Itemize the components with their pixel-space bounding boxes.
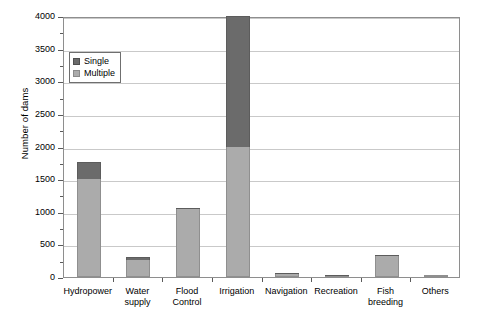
x-axis-tick [262, 278, 263, 282]
x-axis-tick [212, 278, 213, 282]
gridline [64, 116, 459, 117]
gridline [64, 51, 459, 52]
y-axis-tick-label: 2500 [0, 110, 55, 119]
legend-label-single: Single [84, 57, 109, 66]
bar [126, 257, 150, 277]
gridline [64, 214, 459, 215]
bar-segment-multiple [325, 276, 349, 277]
bar [424, 276, 448, 277]
x-axis-tick-label: Recreation [311, 286, 361, 297]
y-axis-tick-label: 500 [0, 240, 55, 249]
x-axis-tick [410, 278, 411, 282]
y-axis-tick-label: 2000 [0, 143, 55, 152]
bar-segment-multiple [226, 147, 250, 278]
bar-segment-multiple [275, 274, 299, 277]
x-axis-tick-label: Irrigation [212, 286, 262, 297]
legend-label-multiple: Multiple [84, 69, 115, 78]
x-axis-tick-label: Flood Control [162, 286, 212, 307]
y-axis-tick-label: 3000 [0, 77, 55, 86]
y-axis-tick [58, 278, 63, 279]
bar [226, 16, 250, 277]
gridline [64, 246, 459, 247]
bar-segment-multiple [375, 256, 399, 277]
bar [325, 275, 349, 277]
x-axis-tick-label: Water supply [113, 286, 163, 307]
legend: Single Multiple [69, 52, 121, 83]
bar-segment-multiple [126, 260, 150, 277]
y-axis-tick-label: 1500 [0, 175, 55, 184]
legend-item-multiple: Multiple [73, 67, 115, 79]
y-axis-tick-label: 3500 [0, 45, 55, 54]
x-axis-tick-label: Hydropower [63, 286, 113, 297]
x-axis-tick [311, 278, 312, 282]
bar-segment-multiple [176, 209, 200, 277]
bar [176, 208, 200, 277]
bar-segment-single [77, 162, 101, 179]
x-axis-tick [162, 278, 163, 282]
x-axis-tick-label: Others [410, 286, 460, 297]
gridline [64, 149, 459, 150]
y-axis-tick-label: 0 [0, 273, 55, 282]
x-axis-tick-label: Fish breeding [361, 286, 411, 307]
bar-segment-multiple [424, 275, 448, 277]
x-axis-tick-label: Navigation [262, 286, 312, 297]
legend-item-single: Single [73, 55, 115, 67]
single-swatch-icon [73, 58, 80, 65]
y-axis-title: Number of dams [19, 54, 30, 194]
y-axis-tick-label: 4000 [0, 12, 55, 21]
x-axis-tick [361, 278, 362, 282]
gridline [64, 181, 459, 182]
y-axis-tick-label: 1000 [0, 208, 55, 217]
chart-figure: Number of dams 0500100015002000250030003… [0, 0, 480, 322]
plot-area: Single Multiple [63, 17, 460, 278]
x-axis-tick [113, 278, 114, 282]
gridline [64, 83, 459, 84]
bar [275, 273, 299, 277]
gridline [64, 18, 459, 19]
bar-segment-single [226, 16, 250, 147]
multiple-swatch-icon [73, 70, 80, 77]
bar-segment-multiple [77, 179, 101, 277]
bar [375, 255, 399, 277]
bar [77, 162, 101, 277]
